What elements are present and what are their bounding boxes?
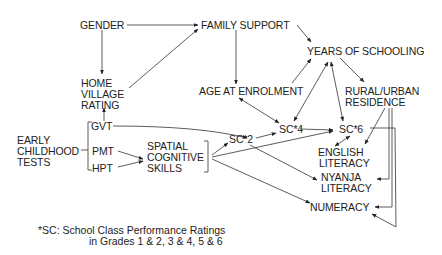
- node-sc6: SC*6: [339, 124, 363, 135]
- node-gender: GENDER: [80, 20, 124, 31]
- edge-spatial-numeracy: [212, 159, 310, 203]
- edge-age-sc4: [239, 98, 279, 123]
- node-english-literacy: ENGLISH LITERACY: [318, 147, 370, 169]
- edge-spatial-sc2: [212, 143, 228, 155]
- node-rural-urban-residence: RURAL/URBAN RESIDENCE: [345, 86, 419, 108]
- edge-age-years: [292, 59, 311, 83]
- node-line: RESIDENCE: [345, 97, 419, 108]
- edge-rural-numeracy: [375, 108, 392, 207]
- bracket-spatial-skills: [204, 141, 208, 172]
- edge-home-village-family-support: [129, 29, 198, 88]
- edge-pmt-spatial: [118, 151, 143, 159]
- node-line: LITERACY: [321, 183, 372, 194]
- node-line: SKILLS: [147, 163, 204, 174]
- edge-years-rural: [340, 58, 364, 82]
- node-line: TESTS: [17, 157, 79, 168]
- node-line: LITERACY: [319, 158, 370, 169]
- node-numeracy: NUMERACY: [310, 202, 369, 213]
- node-pmt: PMT: [92, 146, 114, 157]
- node-family-support: FAMILY SUPPORT: [201, 20, 289, 31]
- path-diagram: [0, 0, 442, 255]
- edge-gvt-sc2: [113, 126, 247, 138]
- edge-sc2-nyanja: [250, 145, 317, 180]
- footnote-line-2: in Grades 1 & 2, 3 & 4, 5 & 6: [89, 236, 223, 247]
- node-line: RATING: [81, 100, 124, 111]
- node-years-of-schooling: YEARS OF SCHOOLING: [307, 46, 424, 57]
- node-sc2: SC*2: [229, 134, 253, 145]
- edge-sc6-english: [335, 136, 350, 146]
- edge-sc4-sc6: [300, 129, 333, 130]
- node-sc4: SC*4: [279, 124, 303, 135]
- node-gvt: GVT: [91, 121, 112, 132]
- node-hpt: HPT: [92, 163, 113, 174]
- edge-rural-english: [365, 108, 385, 144]
- edge-sc2-sc4: [256, 133, 276, 138]
- node-early-childhood-tests: EARLY CHILDHOOD TESTS: [17, 135, 79, 168]
- node-nyanja-literacy: NYANJA LITERACY: [321, 172, 372, 194]
- node-spatial-cognitive-skills: SPATIAL COGNITIVE SKILLS: [147, 141, 204, 174]
- node-home-village-rating: HOME VILLAGE RATING: [81, 78, 124, 111]
- edge-hpt-spatial: [118, 161, 143, 167]
- edge-family-support-years: [297, 25, 311, 42]
- node-age-at-enrolment: AGE AT ENROLMENT: [199, 86, 303, 97]
- edge-years-sc6: [331, 62, 343, 121]
